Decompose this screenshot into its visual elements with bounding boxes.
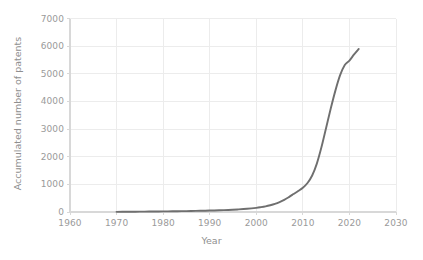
y-tick-label: 0 [20,207,64,217]
y-axis-title: Accumulated number of patents [12,34,23,194]
y-tick-label: 7000 [20,14,64,24]
x-tick-label: 1970 [105,218,128,228]
y-tick-label: 6000 [20,41,64,51]
x-tick-label: 2020 [338,218,361,228]
x-tick-label: 2010 [291,218,314,228]
y-tick-label: 1000 [20,179,64,189]
y-tick-label: 3000 [20,124,64,134]
x-tick-label: 2030 [384,218,407,228]
y-tick-label: 4000 [20,96,64,106]
x-tick-label: 2000 [245,218,268,228]
x-tick-label: 1980 [151,218,174,228]
y-tick-label: 2000 [20,152,64,162]
gridlines-group [70,19,396,213]
chart-figure: 01000200030004000500060007000 1960197019… [0,0,423,260]
x-axis-title: Year [0,235,423,246]
x-tick-label: 1960 [58,218,81,228]
y-tick-label: 5000 [20,69,64,79]
x-tick-label: 1990 [198,218,221,228]
